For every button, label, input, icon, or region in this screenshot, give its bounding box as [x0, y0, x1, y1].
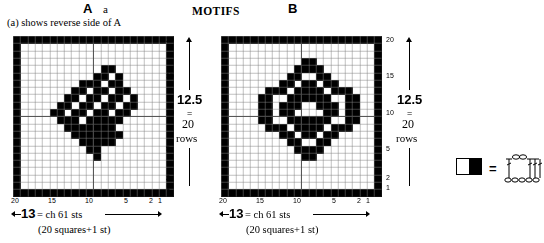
chart-a-height-unit: rows [176, 132, 197, 144]
chart-b-yaxis-10: 10 [386, 109, 394, 116]
chart-a-xaxis-5: 5 [124, 197, 128, 204]
chart-a-yaxis-20: 20 [166, 36, 174, 43]
chart-a-width-bar-right [105, 214, 160, 215]
chart-a-height-bar-bottom [189, 148, 190, 186]
chart-b-width-bar-right [313, 214, 368, 215]
chart-a-height-count: 20 [182, 117, 194, 132]
reverse-side-note: (a) shows reverse side of A [7, 17, 121, 28]
chart-a-height-value: 12.5 [177, 92, 202, 107]
page-title: MOTIFS [192, 5, 240, 17]
chart-b-xaxis-15: 15 [256, 197, 264, 204]
chart-b-height-count: 20 [402, 117, 414, 132]
chart-b-width-sub: (20 squares+1 st) [246, 224, 318, 235]
chart-a-title: A [83, 1, 93, 16]
chart-b-yaxis-20: 20 [386, 36, 394, 43]
chart-b-height-unit: rows [396, 132, 417, 144]
chart-b-title: B [288, 1, 297, 16]
chart-b-xaxis-2: 2 [357, 197, 361, 204]
chart-a-width-sub: (20 squares+1 st) [38, 224, 110, 235]
chart-a-xaxis-20: 20 [11, 197, 19, 204]
chart-b-height-bar-top [409, 42, 410, 90]
half-filled-square-icon [456, 158, 482, 175]
chart-a-height-bar-top [189, 42, 190, 90]
chart-a-yaxis-10: 10 [166, 109, 174, 116]
chart-b-xaxis-1: 1 [366, 197, 370, 204]
chart-b-xaxis-10: 10 [293, 197, 301, 204]
chart-a-yaxis-15: 15 [166, 72, 174, 79]
chart-a-width-equals: = ch 61 sts [37, 209, 82, 220]
chart-a-xaxis-2: 2 [149, 197, 153, 204]
chart-b-height-bar-bottom [409, 148, 410, 186]
chart-b-grid [221, 36, 382, 197]
chart-a-yaxis-2: 2 [166, 174, 170, 181]
chart-a-xaxis-10: 10 [85, 197, 93, 204]
chart-b-yaxis-1: 1 [386, 184, 390, 191]
chart-a-yaxis-1: 1 [166, 184, 170, 191]
chart-b-yaxis-5: 5 [386, 145, 390, 152]
chart-a-yaxis-5: 5 [166, 145, 170, 152]
chart-b-xaxis-5: 5 [332, 197, 336, 204]
legend-equals-sign: = [489, 161, 497, 176]
chart-b-width-arrow-right [366, 211, 370, 217]
chart-a-xaxis-1: 1 [158, 197, 162, 204]
chart-b-xaxis-20: 20 [219, 197, 227, 204]
chart-a-width-arrow-right [158, 211, 162, 217]
crochet-stitch-diagram-icon [503, 152, 543, 190]
chart-b-height-value: 12.5 [397, 92, 422, 107]
chart-b-yaxis-15: 15 [386, 72, 394, 79]
swatch-filled-half [469, 159, 481, 174]
chart-a-subtitle: a [103, 3, 108, 15]
chart-a-grid [13, 36, 174, 197]
chart-b-yaxis-2: 2 [386, 174, 390, 181]
chart-b-width-equals: = ch 61 sts [245, 209, 290, 220]
chart-a-width-value: 13 [21, 206, 35, 221]
chart-a-xaxis-15: 15 [48, 197, 56, 204]
chart-b-width-value: 13 [229, 206, 243, 221]
